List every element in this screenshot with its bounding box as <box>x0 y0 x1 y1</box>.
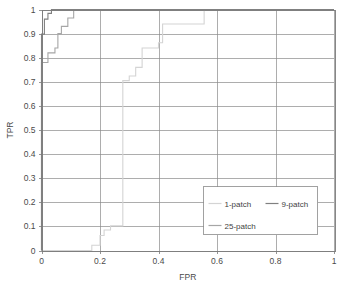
y-tick-label: 0.3 <box>24 173 36 183</box>
chart-legend: 1-patch9-patch25-patch <box>204 187 318 235</box>
y-tick-label: 0.2 <box>24 197 36 207</box>
x-tick-label: 0.4 <box>153 256 165 266</box>
x-tick-label: 0.8 <box>270 256 282 266</box>
x-tick-label: 1 <box>332 256 337 266</box>
y-axis-tick-labels: 00.10.20.30.40.50.60.70.80.91 <box>24 5 36 256</box>
legend-label-9-patch: 9-patch <box>282 200 309 209</box>
x-tick-label: 0.6 <box>211 256 223 266</box>
x-tick-label: 0.2 <box>94 256 106 266</box>
y-axis-title: TPR <box>5 122 15 139</box>
y-tick-label: 0.8 <box>24 53 36 63</box>
y-tick-label: 0.4 <box>24 149 36 159</box>
y-tick-label: 0.9 <box>24 29 36 39</box>
y-tick-label: 0.5 <box>24 125 36 135</box>
legend-box <box>204 187 318 235</box>
legend-label-1-patch: 1-patch <box>225 200 252 209</box>
x-axis-title: FPR <box>179 272 196 282</box>
y-tick-label: 0.7 <box>24 77 36 87</box>
y-tick-label: 0.6 <box>24 101 36 111</box>
x-tick-label: 0 <box>39 256 44 266</box>
y-tick-label: 0.1 <box>24 221 36 231</box>
x-axis-tick-labels: 00.20.40.60.81 <box>39 256 337 266</box>
roc-chart: 00.20.40.60.81 00.10.20.30.40.50.60.70.8… <box>0 0 349 294</box>
chart-plot-area: 00.20.40.60.81 00.10.20.30.40.50.60.70.8… <box>0 0 349 294</box>
legend-label-25-patch: 25-patch <box>225 222 256 231</box>
y-tick-label: 1 <box>31 5 36 15</box>
y-tick-label: 0 <box>31 246 36 256</box>
